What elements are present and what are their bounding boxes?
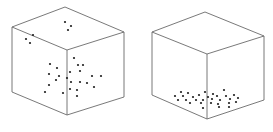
particle-dot: [93, 86, 95, 88]
particle-dots: [25, 21, 102, 97]
particle-dot: [192, 96, 194, 98]
particle-dot: [25, 38, 27, 40]
particle-dot: [200, 102, 202, 104]
cube-edge: [67, 97, 124, 115]
particle-dot: [77, 64, 79, 66]
particle-dot: [219, 99, 221, 101]
particle-dots: [174, 89, 239, 109]
particle-dot: [56, 67, 58, 69]
cube-outline: [152, 12, 264, 119]
particle-dot: [217, 103, 219, 105]
particle-dot: [69, 88, 71, 90]
particle-dot: [70, 25, 72, 27]
particle-dot: [29, 42, 31, 44]
cube-panel-dispersed: [12, 7, 124, 115]
particle-dot: [202, 107, 204, 109]
particle-dot: [174, 95, 176, 97]
cube-edge: [205, 12, 264, 36]
particle-dot: [69, 71, 71, 73]
particle-dot: [202, 99, 204, 101]
figure-canvas: [0, 0, 273, 132]
particle-dot: [216, 95, 218, 97]
particle-dot: [180, 91, 182, 93]
particle-dot: [64, 21, 66, 23]
particle-dot: [223, 89, 225, 91]
cube-edge: [152, 32, 207, 54]
particle-dot: [198, 94, 200, 96]
cube-edge: [65, 7, 124, 32]
particle-dot: [189, 102, 191, 104]
particle-dot: [211, 98, 213, 100]
cube-edge: [67, 32, 124, 50]
particle-dot: [185, 99, 187, 101]
particle-dot: [66, 77, 68, 79]
particle-dot: [82, 64, 84, 66]
particle-dot: [79, 81, 81, 83]
two-cube-particle-diagram: [0, 0, 273, 132]
particle-dot: [73, 57, 75, 59]
particle-dot: [70, 81, 72, 83]
particle-dot: [229, 98, 231, 100]
particle-dot: [49, 63, 51, 65]
particle-dot: [218, 106, 220, 108]
cube-outline: [12, 7, 124, 115]
particle-dot: [228, 106, 230, 108]
particle-dot: [235, 101, 237, 103]
particle-dot: [48, 73, 50, 75]
particle-dot: [207, 96, 209, 98]
cube-edge: [207, 36, 264, 54]
particle-dot: [76, 95, 78, 97]
cube-edge: [12, 92, 67, 115]
particle-dot: [48, 84, 50, 86]
particle-dot: [237, 97, 239, 99]
cube-edge: [152, 12, 205, 32]
particle-dot: [44, 91, 46, 93]
particle-dot: [86, 82, 88, 84]
particle-dot: [187, 92, 189, 94]
particle-dot: [55, 79, 57, 81]
particle-dot: [62, 92, 64, 94]
particle-dot: [58, 75, 60, 77]
particle-dot: [100, 75, 102, 77]
particle-dot: [67, 29, 69, 31]
cube-edge: [152, 95, 207, 119]
particle-dot: [91, 75, 93, 77]
particle-dot: [177, 99, 179, 101]
cube-panel-settled: [152, 12, 264, 119]
particle-dot: [210, 102, 212, 104]
particle-dot: [225, 95, 227, 97]
particle-dot: [204, 91, 206, 93]
particle-dot: [32, 34, 34, 36]
cube-edge: [12, 27, 67, 50]
particle-dot: [182, 95, 184, 97]
particle-dot: [228, 102, 230, 104]
particle-dot: [212, 93, 214, 95]
particle-dot: [79, 70, 81, 72]
particle-dot: [195, 99, 197, 101]
particle-dot: [76, 89, 78, 91]
particle-dot: [233, 94, 235, 96]
cube-edge: [12, 7, 65, 27]
